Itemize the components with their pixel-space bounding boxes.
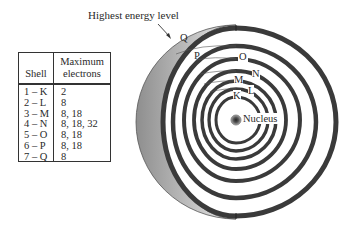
shell-label-q: Q xyxy=(180,32,188,43)
table-header-divider xyxy=(19,83,110,85)
shell-label-p: P xyxy=(194,50,200,61)
table-row: 4 – N8, 18, 32 xyxy=(19,118,110,129)
header-shell: Shell xyxy=(19,68,53,80)
shell-label-o: O xyxy=(238,51,248,62)
table-row: 5 – O8, 18 xyxy=(19,129,110,140)
shell-capacity-table: Shell Maximum electrons 1 – K2 2 – L8 3 … xyxy=(18,52,111,162)
nucleus-dot xyxy=(231,115,241,125)
table-row: 3 – M8, 18 xyxy=(19,108,110,119)
table-row: 1 – K2 xyxy=(19,86,110,97)
shell-label-k: K xyxy=(233,90,241,101)
highest-energy-caption: Highest energy level xyxy=(88,9,179,21)
header-max-electrons: Maximum electrons xyxy=(54,56,110,80)
table-row: 6 – P8, 18 xyxy=(19,140,110,151)
table-row: 7 – Q8 xyxy=(19,151,110,162)
arrow-icon xyxy=(158,24,171,39)
shell-label-l: L xyxy=(248,85,254,96)
nucleus-label: Nucleus xyxy=(243,113,278,124)
table-row: 2 – L8 xyxy=(19,97,110,108)
shell-label-n: N xyxy=(252,68,260,79)
shell-label-m: M xyxy=(234,74,243,85)
